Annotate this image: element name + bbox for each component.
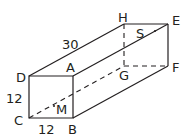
label-h: H (118, 10, 128, 25)
prism-diagram: A B C D E F G H M S 30 12 12 (0, 0, 190, 137)
label-g: G (119, 68, 129, 83)
label-b: B (68, 122, 77, 137)
dimension-height: 12 (6, 91, 23, 106)
label-m: M (56, 102, 67, 117)
label-d: D (16, 70, 26, 85)
dimension-length: 30 (62, 37, 79, 52)
label-c: C (14, 113, 23, 128)
point-s-dot (154, 30, 156, 32)
label-e: E (172, 13, 180, 28)
label-f: F (172, 60, 179, 75)
dimension-width: 12 (38, 122, 55, 137)
point-m-dot (53, 105, 55, 107)
label-s: S (136, 26, 144, 41)
label-a: A (66, 60, 75, 75)
